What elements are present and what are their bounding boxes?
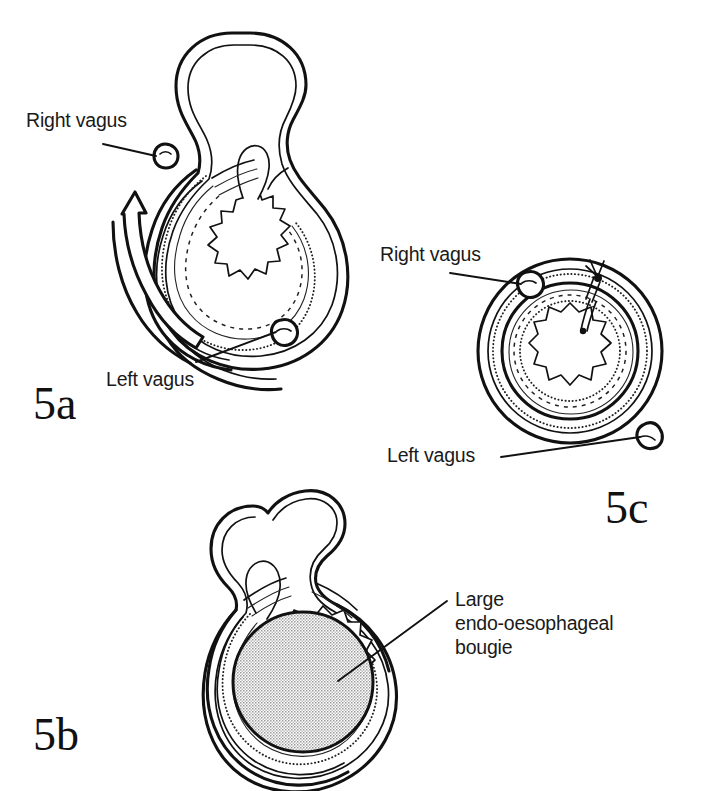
panel-5c-left-vagus-nerve — [637, 423, 662, 449]
panel-label-5c: 5c — [605, 485, 648, 531]
panel-label-5b: 5b — [33, 712, 79, 758]
panel-5c-right-vagus-label: Right vagus — [380, 242, 481, 266]
panel-5c-left-vagus-label: Left vagus — [387, 443, 475, 467]
bougie-label-line-2: endo-oesophageal — [455, 612, 613, 634]
panel-5b-illustration — [203, 491, 447, 791]
panel-5a-right-vagus-label: Right vagus — [26, 108, 127, 132]
panel-label-5a: 5a — [33, 381, 76, 427]
panel-5b-bougie-label: Largeendo-oesophagealbougie — [455, 587, 613, 659]
panel-5c-illustration — [450, 259, 662, 457]
panel-5c-right-vagus-leader — [450, 273, 521, 284]
panel-5a-illustration — [103, 33, 348, 390]
figure-root: .ink { fill:none; stroke:#111111; stroke… — [0, 0, 704, 791]
bougie-label-line-3: bougie — [455, 636, 512, 658]
panel-5a-left-vagus-label: Left vagus — [106, 367, 194, 391]
panel-5a-right-vagus-nerve — [154, 144, 178, 168]
panel-5b-bougie — [233, 612, 373, 752]
panel-5a-right-vagus-leader — [103, 144, 156, 156]
bougie-label-line-1: Large — [455, 588, 504, 610]
